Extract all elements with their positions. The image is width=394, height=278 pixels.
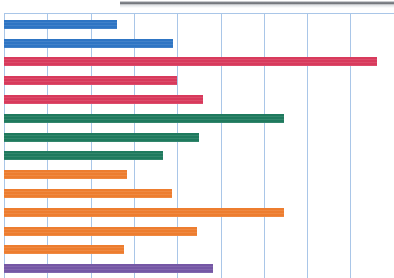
bar-chart-plot-area bbox=[0, 0, 394, 278]
bar-6 bbox=[4, 114, 284, 123]
gridline-vertical-8 bbox=[350, 13, 351, 278]
gridline-vertical-7 bbox=[307, 13, 308, 278]
bar-12 bbox=[4, 227, 197, 236]
bar-14 bbox=[4, 264, 213, 273]
bar-8 bbox=[4, 151, 163, 160]
chart-screenshot bbox=[0, 0, 394, 278]
bar-5 bbox=[4, 95, 203, 104]
gridline-vertical-4 bbox=[177, 13, 178, 278]
bar-4 bbox=[4, 76, 177, 85]
bar-11 bbox=[4, 208, 284, 217]
bar-2 bbox=[4, 39, 173, 48]
bar-13 bbox=[4, 245, 124, 254]
gridline-vertical-3 bbox=[134, 13, 135, 278]
gridline-vertical-2 bbox=[91, 13, 92, 278]
bar-7 bbox=[4, 133, 199, 142]
gridline-vertical-6 bbox=[264, 13, 265, 278]
gridline-vertical-0 bbox=[4, 13, 5, 278]
gridline-vertical-5 bbox=[221, 13, 222, 278]
bar-9 bbox=[4, 170, 127, 179]
bar-10 bbox=[4, 189, 172, 198]
bar-3 bbox=[4, 57, 377, 66]
gridline-horizontal-top bbox=[4, 13, 394, 14]
gridline-vertical-1 bbox=[47, 13, 48, 278]
bar-1 bbox=[4, 20, 117, 29]
